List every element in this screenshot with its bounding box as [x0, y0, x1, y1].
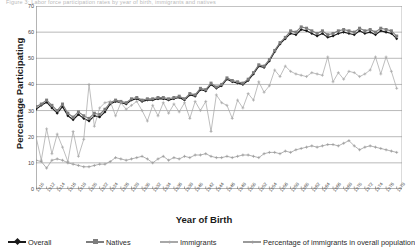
- legend-label: Percentage of immigrants in overall popu…: [263, 238, 415, 247]
- legend-label: Natives: [106, 238, 131, 247]
- plus-marker-icon: +: [160, 238, 178, 246]
- series-natives: [36, 25, 398, 120]
- series-percentage-of-immigrants-in-overall-population: [36, 139, 398, 169]
- legend-item-overall[interactable]: Overall: [8, 238, 51, 247]
- y-tick-label: 20: [18, 134, 34, 140]
- square-marker-icon: [86, 238, 104, 246]
- y-tick-label: 10: [18, 160, 34, 166]
- chart-legend: OverallNatives+Immigrants+Percentage of …: [0, 232, 408, 252]
- x-axis-tick-labels: 1910191219141916191819201922192419261928…: [36, 190, 402, 214]
- figure-caption-fragment: Figure 3: Labor force participation rate…: [6, 0, 216, 5]
- y-tick-label: 50: [18, 55, 34, 61]
- y-tick-label: 30: [18, 108, 34, 114]
- legend-label: Overall: [28, 238, 51, 247]
- plus-marker-icon: +: [243, 238, 261, 246]
- legend-label: Immigrants: [180, 238, 217, 247]
- y-tick-label: 0: [18, 186, 34, 192]
- y-tick-label: 70: [18, 3, 34, 9]
- series-overall: [36, 28, 398, 123]
- y-tick-label: 40: [18, 81, 34, 87]
- plot-area: [36, 6, 402, 189]
- diamond-marker-icon: [8, 238, 26, 246]
- plot-svg: [36, 6, 402, 189]
- legend-item-percentage-of-immigrants-in-overall-population[interactable]: +Percentage of immigrants in overall pop…: [243, 238, 415, 247]
- y-axis-tick-labels: 010203040506070: [14, 0, 34, 190]
- y-tick-label: 60: [18, 29, 34, 35]
- x-axis-title: Year of Birth: [0, 214, 408, 225]
- legend-item-natives[interactable]: Natives: [86, 238, 131, 247]
- series-immigrants: [36, 55, 398, 163]
- legend-item-immigrants[interactable]: +Immigrants: [160, 238, 217, 247]
